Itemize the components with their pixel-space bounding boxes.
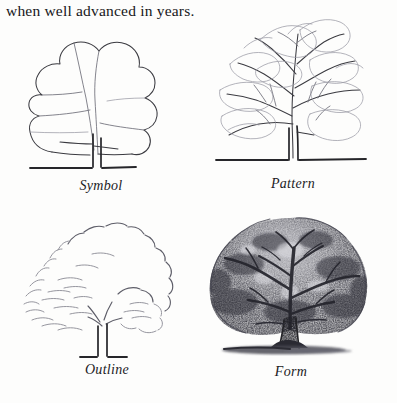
panel-label-pattern: Pattern	[200, 176, 386, 192]
figure-panel-form: Form	[198, 206, 384, 386]
figure-page: when well advanced in years. Symbol	[0, 0, 397, 403]
tree-pattern-icon	[200, 12, 386, 170]
figure-panel-pattern: Pattern	[200, 12, 386, 192]
figure-panel-outline: Outline	[14, 208, 200, 388]
panel-label-form: Form	[198, 364, 384, 380]
tree-symbol-icon	[8, 22, 194, 180]
panel-label-symbol: Symbol	[8, 178, 194, 194]
tree-form-icon	[198, 206, 384, 364]
panel-label-outline: Outline	[14, 362, 200, 378]
figure-panel-symbol: Symbol	[8, 22, 194, 202]
tree-outline-icon	[14, 208, 200, 366]
